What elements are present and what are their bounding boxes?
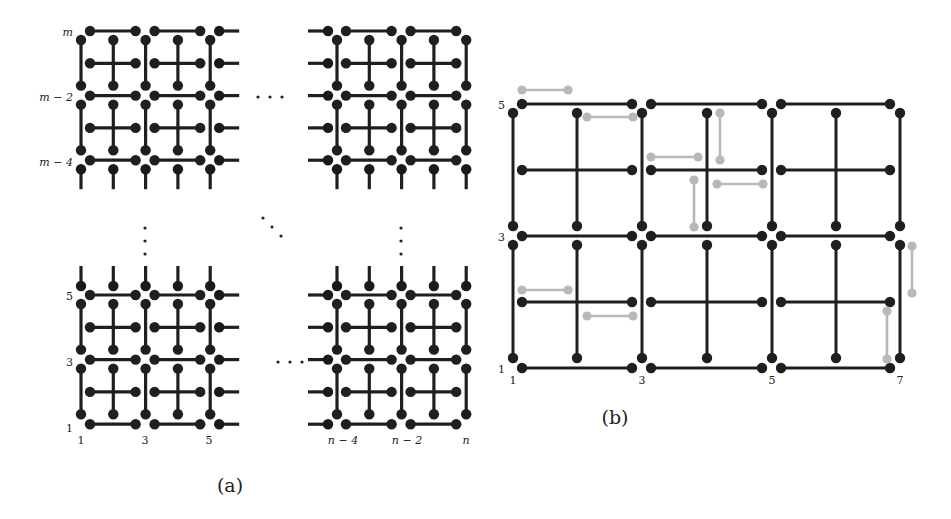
node — [637, 108, 647, 118]
node — [702, 108, 712, 118]
node — [396, 363, 406, 373]
node — [386, 322, 396, 332]
node — [195, 387, 205, 397]
ellipsis-dot — [399, 252, 402, 255]
node — [885, 231, 895, 241]
node — [563, 85, 572, 94]
node — [195, 322, 205, 332]
node — [461, 363, 471, 373]
node — [108, 80, 118, 90]
panel-b-caption: (b) — [602, 406, 629, 428]
block-top-right — [308, 26, 471, 189]
ellipsis-dot — [256, 95, 259, 98]
node — [323, 290, 333, 300]
node — [885, 297, 895, 307]
node — [693, 152, 702, 161]
node — [130, 387, 140, 397]
node — [702, 353, 712, 363]
node — [364, 344, 374, 354]
node — [517, 297, 527, 307]
node — [429, 35, 439, 45]
ellipsis-dot — [143, 239, 146, 242]
diagonal-ellipsis — [261, 216, 282, 237]
node — [214, 123, 224, 133]
column-label: n — [462, 434, 469, 447]
ellipsis-dot — [399, 239, 402, 242]
node — [429, 363, 439, 373]
node — [757, 165, 767, 175]
block-top-left — [76, 26, 239, 189]
panel-a-caption: (a) — [217, 474, 243, 496]
node — [517, 85, 526, 94]
node — [149, 155, 159, 165]
vertical-ellipsis — [399, 226, 402, 255]
node — [646, 152, 655, 161]
node — [396, 299, 406, 309]
node — [831, 108, 841, 118]
node — [461, 164, 471, 174]
node — [767, 240, 777, 250]
node — [405, 90, 415, 100]
ellipsis-dot — [276, 360, 279, 363]
ellipsis-dot — [270, 225, 273, 228]
ellipsis-dot — [143, 252, 146, 255]
node — [364, 281, 374, 291]
node — [689, 222, 698, 231]
node — [405, 290, 415, 300]
node — [195, 419, 205, 429]
node — [429, 281, 439, 291]
ellipsis-dot — [399, 226, 402, 229]
node — [715, 155, 724, 164]
node — [715, 108, 724, 117]
node — [451, 387, 461, 397]
node — [76, 80, 86, 90]
node — [702, 221, 712, 231]
node — [323, 354, 333, 364]
node — [637, 221, 647, 231]
column-label: n − 2 — [392, 434, 422, 447]
node — [386, 290, 396, 300]
node — [149, 58, 159, 68]
node — [76, 99, 86, 109]
node — [364, 80, 374, 90]
node — [108, 164, 118, 174]
node — [461, 299, 471, 309]
node — [332, 299, 342, 309]
node — [332, 409, 342, 419]
node — [205, 363, 215, 373]
node — [214, 58, 224, 68]
node — [517, 231, 527, 241]
node — [405, 123, 415, 133]
node — [451, 419, 461, 429]
node — [149, 387, 159, 397]
node — [364, 363, 374, 373]
node — [572, 221, 582, 231]
node — [451, 123, 461, 133]
node — [205, 299, 215, 309]
node — [461, 281, 471, 291]
node — [130, 90, 140, 100]
panel-b-7x5-grid-tiling: 5311357 — [498, 85, 917, 387]
node — [108, 145, 118, 155]
vertical-ellipsis — [143, 226, 146, 255]
node — [214, 354, 224, 364]
node — [563, 285, 572, 294]
node — [173, 145, 183, 155]
node — [757, 99, 767, 109]
node — [627, 165, 637, 175]
node — [767, 353, 777, 363]
node — [882, 306, 891, 315]
node — [508, 221, 518, 231]
horizontal-ellipsis — [256, 95, 283, 98]
node — [508, 353, 518, 363]
node — [461, 35, 471, 45]
node — [205, 145, 215, 155]
node — [108, 281, 118, 291]
node — [323, 58, 333, 68]
node — [628, 311, 637, 320]
node — [386, 123, 396, 133]
row-label: m − 2 — [39, 91, 73, 104]
node — [508, 108, 518, 118]
node — [907, 241, 916, 250]
node — [646, 231, 656, 241]
